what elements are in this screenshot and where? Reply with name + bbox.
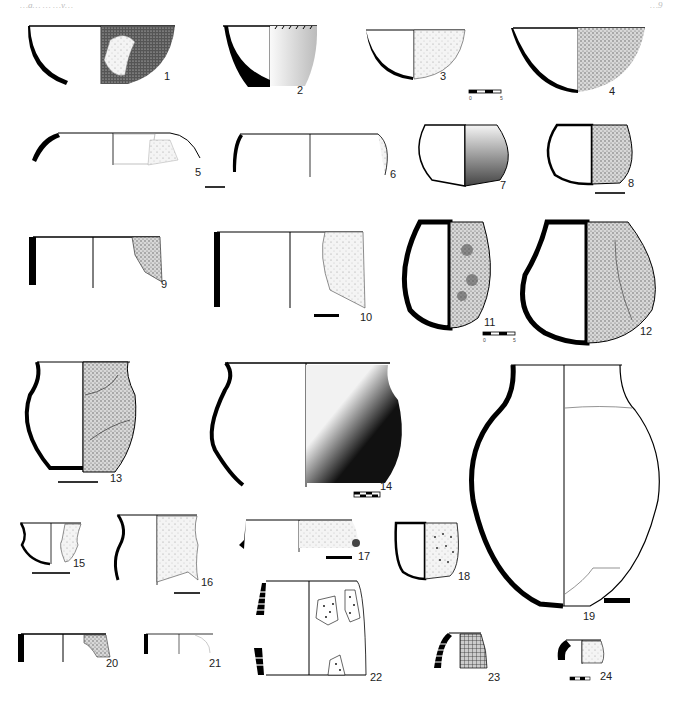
fig-label-8: 8 [628,177,634,189]
fig-label-9: 9 [161,278,167,290]
figure-4 [511,28,645,93]
fig-label-20: 20 [106,657,118,669]
figure-24 [558,640,604,664]
fig-label-13: 13 [110,472,122,484]
figure-7 [419,125,508,186]
scale-start-3: 0 [469,95,472,101]
figure-19 [472,365,660,606]
fig-label-14: 14 [380,480,392,492]
fig-label-12: 12 [640,325,652,337]
figure-21 [144,634,213,654]
figure-3 [366,30,465,80]
fig-label-5: 5 [195,166,201,178]
scale-end-3: 5 [500,95,503,101]
fig-label-17: 17 [358,550,370,562]
fig-label-18: 18 [458,570,470,582]
figure-14 [212,363,402,487]
fig-label-21: 21 [209,657,221,669]
figure-1 [28,26,175,85]
fig-label-15: 15 [73,557,85,569]
fig-label-23: 23 [488,671,500,683]
fig-label-4: 4 [609,85,615,97]
figure-22 [254,581,366,675]
scale-end-11: 5 [513,337,516,343]
fig-label-24: 24 [600,670,612,682]
figure-12 [523,222,656,343]
fig-label-7: 7 [500,179,506,191]
fig-label-6: 6 [390,168,396,180]
fig-label-2: 2 [297,84,303,96]
fig-label-19: 19 [583,610,595,622]
figure-9 [29,237,162,288]
figure-17 [239,520,360,552]
fig-label-16: 16 [201,576,213,588]
figure-16 [115,515,198,585]
figure-18 [396,523,459,579]
scale-start-11: 0 [483,337,486,343]
fig-label-10: 10 [360,311,372,323]
figure-6 [233,134,387,177]
figure-15 [20,523,81,564]
figure-20 [18,634,110,662]
figure-2 [223,26,317,87]
figure-23 [433,633,487,668]
figure-13 [27,362,136,472]
fig-label-11: 11 [484,316,495,328]
figure-11 [404,222,490,328]
fig-label-22: 22 [370,671,382,683]
figure-10 [214,232,365,308]
figure-8 [548,125,632,184]
fig-label-3: 3 [440,70,446,82]
fig-label-1: 1 [164,70,170,82]
figure-5 [32,133,200,165]
pottery-plate [0,0,680,704]
